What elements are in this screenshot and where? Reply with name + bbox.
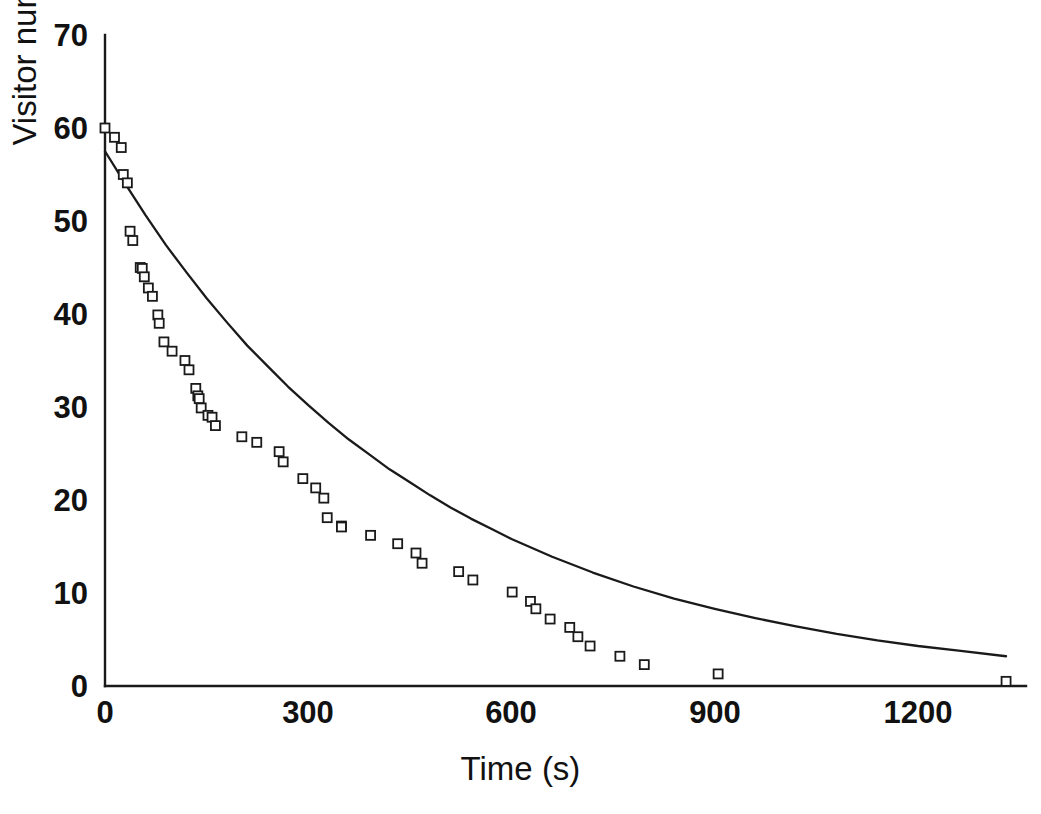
data-point-marker — [195, 394, 204, 403]
data-point-marker — [468, 575, 477, 584]
data-point-marker — [454, 567, 463, 576]
data-point-marker — [714, 669, 723, 678]
data-point-marker — [546, 615, 555, 624]
x-tick-label-0: 0 — [65, 697, 145, 728]
data-point-marker — [117, 143, 126, 152]
y-tick-label-10: 10 — [10, 578, 88, 609]
data-point-marker — [586, 642, 595, 651]
data-point-marker — [140, 272, 149, 281]
data-point-marker — [311, 483, 320, 492]
data-point-marker — [275, 447, 284, 456]
data-point-marker — [126, 227, 135, 236]
plot-area — [0, 0, 1041, 814]
data-point-marker — [531, 604, 540, 613]
fit-curve-line — [105, 151, 1006, 656]
data-point-marker — [1002, 677, 1011, 686]
data-point-marker — [123, 178, 132, 187]
data-point-marker — [279, 457, 288, 466]
data-point-marker — [159, 337, 168, 346]
data-point-marker — [110, 133, 119, 142]
data-point-marker — [101, 124, 110, 133]
chart-figure: 70 60 50 40 30 20 10 0 0 300 600 900 120… — [0, 0, 1041, 814]
data-point-marker — [508, 588, 517, 597]
data-point-marker — [573, 632, 582, 641]
data-point-marker — [337, 522, 346, 531]
data-point-marker — [393, 539, 402, 548]
data-point-marker — [319, 494, 328, 503]
axis-lines — [105, 35, 1026, 686]
data-point-marker — [366, 531, 375, 540]
x-tick-label-1200: 1200 — [878, 697, 958, 728]
data-point-marker — [185, 365, 194, 374]
x-tick-label-600: 600 — [471, 697, 551, 728]
data-point-marker — [237, 432, 246, 441]
data-point-marker — [180, 356, 189, 365]
data-point-marker — [418, 559, 427, 568]
x-tick-label-900: 900 — [675, 697, 755, 728]
x-tick-label-300: 300 — [268, 697, 348, 728]
data-point-marker — [411, 549, 420, 558]
data-point-marker — [148, 292, 157, 301]
data-point-marker — [615, 652, 624, 661]
data-point-marker — [565, 623, 574, 632]
data-point-marker — [298, 474, 307, 483]
data-point-marker — [168, 347, 177, 356]
y-axis-title: Visitor number — [8, 0, 41, 560]
data-point-markers — [101, 124, 1011, 686]
data-point-marker — [155, 319, 164, 328]
x-axis-title: Time (s) — [0, 752, 1041, 785]
data-point-marker — [211, 421, 220, 430]
data-point-marker — [323, 513, 332, 522]
data-point-marker — [128, 236, 137, 245]
data-point-marker — [640, 660, 649, 669]
data-point-marker — [252, 438, 261, 447]
